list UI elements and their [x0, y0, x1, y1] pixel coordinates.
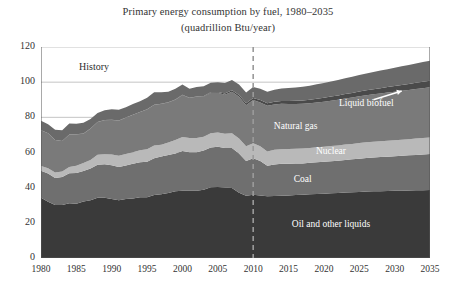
chart-title: Primary energy consumption by fuel, 1980… [0, 6, 456, 17]
x-axis-tick-label: 2025 [339, 264, 379, 274]
chart-subtitle: (quadrillion Btu/year) [0, 22, 456, 33]
x-axis-tick-label: 2035 [410, 264, 450, 274]
annotation-liquid-biofuel: Liquid biofuel [339, 98, 394, 108]
annotation-coal: Coal [294, 174, 312, 184]
annotation-oil: Oil and other liquids [292, 219, 370, 229]
x-axis-tick-label: 1995 [127, 264, 167, 274]
x-axis-tick-label: 2015 [269, 264, 309, 274]
area-chart-svg [41, 47, 430, 258]
x-axis-tick-label: 2010 [233, 264, 273, 274]
annotation-nuclear: Nuclear [316, 146, 346, 156]
y-axis-tick-label: 120 [5, 40, 35, 51]
y-axis-tick-label: 40 [5, 181, 35, 192]
annotation-natural-gas: Natural gas [274, 121, 318, 131]
x-axis-tick-label: 1980 [21, 264, 61, 274]
y-axis-tick-label: 20 [5, 216, 35, 227]
x-axis-tick-label: 1985 [56, 264, 96, 274]
plot-area [41, 47, 430, 258]
x-axis-tick-label: 2030 [375, 264, 415, 274]
x-axis-tick-label: 2005 [198, 264, 238, 274]
y-axis-tick-label: 80 [5, 110, 35, 121]
y-axis-tick-label: 100 [5, 75, 35, 86]
annotation-other-renewables: Other renewables [298, 58, 365, 68]
y-axis-tick-label: 0 [5, 251, 35, 262]
x-axis-tick-label: 2000 [162, 264, 202, 274]
x-axis-tick-label: 2020 [304, 264, 344, 274]
chart-root: Primary energy consumption by fuel, 1980… [0, 0, 456, 287]
annotation-history: History [79, 61, 109, 72]
y-axis-tick-label: 60 [5, 146, 35, 157]
x-axis-tick-label: 1990 [92, 264, 132, 274]
